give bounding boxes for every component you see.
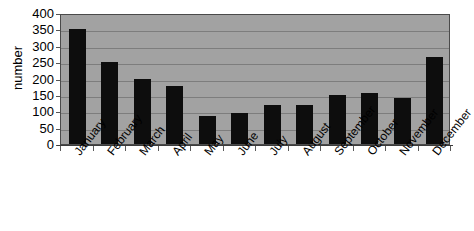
- y-axis-tick-label: 50: [22, 122, 54, 135]
- x-axis-category-labels: JanuaryFebruaryMarchAprilMayJuneJulyAugu…: [0, 150, 463, 231]
- y-axis-tick-label: 250: [22, 56, 54, 69]
- y-axis-tick-label: 100: [22, 105, 54, 118]
- y-axis-tick-labels: 050100150200250300350400: [22, 7, 54, 152]
- y-axis-tick-label: 200: [22, 73, 54, 86]
- y-axis-tick-label: 350: [22, 23, 54, 36]
- y-axis-tick-label: 400: [22, 7, 54, 20]
- y-axis-tick-label: 150: [22, 89, 54, 102]
- bar: [69, 29, 86, 144]
- bar: [101, 62, 118, 144]
- bar: [426, 57, 443, 144]
- y-axis-tick-label: 300: [22, 40, 54, 53]
